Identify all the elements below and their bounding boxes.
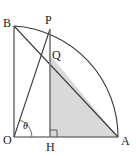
vertex-label-b: B: [3, 17, 11, 29]
vertex-label-q: Q: [52, 49, 61, 61]
shaded-triangle-qha: [50, 55, 118, 137]
figure-canvas: [0, 0, 136, 156]
angle-label-theta: θ: [23, 121, 28, 131]
vertex-label-a: A: [121, 135, 130, 147]
vertex-label-h: H: [46, 141, 55, 153]
geometry-figure: B P Q O H A θ: [0, 0, 136, 156]
vertex-label-p: P: [45, 14, 52, 26]
vertex-label-o: O: [3, 134, 12, 146]
